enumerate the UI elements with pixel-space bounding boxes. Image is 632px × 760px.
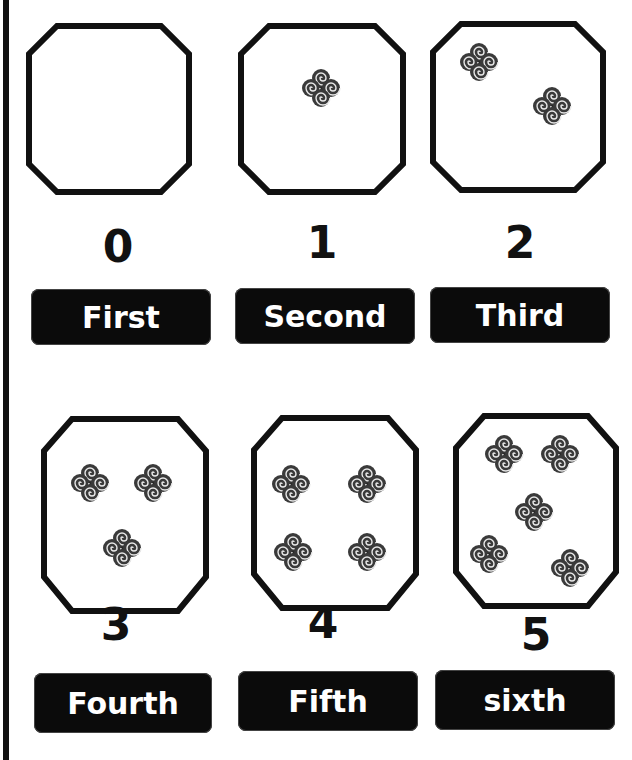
- count-number-4: 4: [293, 598, 353, 648]
- ordinal-button-fifth[interactable]: Fifth: [238, 671, 418, 731]
- ordinal-button-third[interactable]: Third: [430, 287, 610, 343]
- ordinal-button-second[interactable]: Second: [235, 288, 415, 344]
- count-card-2: [429, 20, 607, 194]
- octagon-frame: [250, 414, 420, 612]
- octagon-frame: [429, 20, 607, 194]
- octagon-frame: [237, 22, 407, 196]
- count-card-3: [40, 415, 210, 615]
- count-number-5: 5: [506, 610, 566, 660]
- count-card-4: [250, 414, 420, 612]
- count-number-2: 2: [490, 218, 550, 268]
- page-left-border: [3, 0, 9, 760]
- instruction-text: [60, 0, 620, 4]
- octagon-frame: [40, 415, 210, 615]
- ordinal-button-sixth[interactable]: sixth: [435, 670, 615, 730]
- ordinal-button-fourth[interactable]: Fourth: [34, 673, 212, 733]
- count-card-5: [452, 412, 620, 610]
- count-number-3: 3: [86, 600, 146, 650]
- count-number-1: 1: [292, 218, 352, 268]
- count-card-0: [25, 22, 193, 196]
- octagon-frame: [25, 22, 193, 196]
- count-number-0: 0: [88, 222, 148, 272]
- ordinal-button-first[interactable]: First: [31, 289, 211, 345]
- octagon-frame: [452, 412, 620, 610]
- count-card-1: [237, 22, 407, 196]
